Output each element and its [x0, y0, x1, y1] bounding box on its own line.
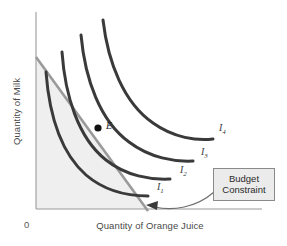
budget-constraint-label-line2: Constraint	[222, 185, 265, 196]
indifference-curve-i4	[103, 20, 213, 140]
budget-constraint-label-line1: Budget	[229, 174, 259, 185]
origin-label: 0	[24, 219, 29, 230]
curve-label-i1: I1	[157, 181, 164, 195]
chart-canvas	[0, 0, 287, 246]
curve-label-i4-subscript: 4	[222, 128, 226, 136]
optimum-point-e	[94, 124, 101, 131]
curve-label-i1-subscript: 1	[160, 187, 164, 195]
budget-constraint-callout: Budget Constraint	[213, 168, 275, 201]
x-axis-title: Quantity of Orange Juice	[60, 220, 240, 231]
indifference-curve-figure: Quantity of Milk Quantity of Orange Juic…	[0, 0, 287, 246]
budget-callout-arrow	[155, 192, 214, 209]
curve-label-i2: I2	[180, 164, 187, 178]
curve-label-i3-subscript: 3	[204, 152, 208, 160]
curve-label-i2-subscript: 2	[183, 170, 187, 178]
curve-label-i3: I3	[201, 146, 208, 160]
curve-label-i4: I4	[219, 122, 226, 136]
y-axis-title: Quantity of Milk	[11, 52, 22, 172]
optimum-point-label: E	[106, 120, 112, 131]
